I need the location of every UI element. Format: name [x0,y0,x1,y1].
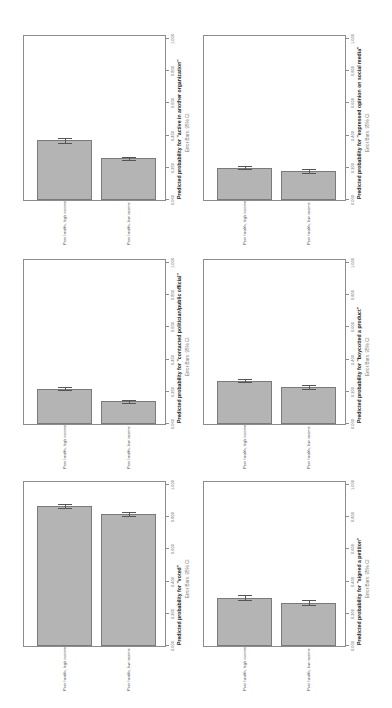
error-bar-cap [122,403,136,404]
error-bar-cap [58,508,72,509]
error-bar-cap [122,516,136,517]
axis-title: Predicted probability for "voted" [176,565,182,645]
tick-label: 0.800 [170,66,175,76]
error-bars-note: Error Bars: 95% CI [365,113,370,152]
axis-tick [346,135,349,136]
axis-tick [346,70,349,71]
chart-panel [23,259,166,425]
tick-label: 0.400 [350,577,355,587]
tick-label: 0.600 [350,544,355,554]
error-bars-note: Error Bars: 95% CI [365,559,370,598]
axis-tick [166,645,169,646]
axis-tick [346,167,349,168]
axis-tick [166,581,169,582]
error-bars-note: Error Bars: 95% CI [365,337,370,376]
error-bar-cap [238,166,252,167]
error-bar-cap [302,600,316,601]
axis-title: Predicted probability for "contacted pol… [176,273,182,423]
error-bars-note: Error Bars: 95% CI [185,559,190,598]
error-bar-cap [58,387,72,388]
axis-tick [346,548,349,549]
tick-label: 0.400 [170,577,175,587]
bar-high-income [217,381,272,424]
tick-label: 1.000 [170,258,175,268]
bar-high-income [217,168,272,200]
error-bar-cap [302,605,316,606]
category-label: Poor health, low income [126,426,131,469]
chart-panel [203,35,346,201]
axis-tick [166,326,169,327]
axis-title: Predicted probability for "boycotted a p… [356,307,362,423]
tick-label: 0.000 [170,195,175,205]
axis-tick [166,167,169,168]
axis-tick [346,102,349,103]
bar-high-income [37,506,92,646]
bar-high-income [37,389,92,424]
error-bar-cap [302,385,316,386]
axis-tick [346,423,349,424]
tick-label: 0.800 [170,512,175,522]
error-bar-cap [238,600,252,601]
axis-tick [166,135,169,136]
error-bar-cap [302,389,316,390]
tick-label: 0.200 [170,609,175,619]
bar-low-income [281,171,336,200]
error-bar-cap [122,512,136,513]
error-bar-cap [58,390,72,391]
axis-title: Predicted probability for "expressed opi… [356,46,362,199]
bar-low-income [101,514,156,646]
axis-tick [346,199,349,200]
tick-label: 0.200 [350,163,355,173]
axis-tick [166,359,169,360]
tick-label: 0.600 [350,98,355,108]
tick-label: 0.000 [350,195,355,205]
category-label: Poor health, high income [242,425,247,469]
axis-tick [346,262,349,263]
axis-tick [166,613,169,614]
chart-panel [23,35,166,201]
bar-low-income [101,158,156,200]
error-bar-cap [238,382,252,383]
tick-label: 0.800 [350,512,355,522]
tick-label: 0.400 [170,131,175,141]
error-bar-cap [238,595,252,596]
axis-tick [166,70,169,71]
axis-tick [166,38,169,39]
category-label: Poor health, high income [242,647,247,691]
bar-high-income [217,598,272,646]
tick-label: 0.800 [170,290,175,300]
category-label: Poor health, high income [62,425,67,469]
axis-tick [166,262,169,263]
axis-tick [346,294,349,295]
category-label: Poor health, low income [306,648,311,691]
tick-label: 0.400 [350,131,355,141]
tick-label: 1.000 [350,34,355,44]
tick-label: 0.800 [350,66,355,76]
axis-title: Predicted probability for "active in ano… [176,59,182,199]
axis-tick [346,359,349,360]
tick-label: 0.600 [170,544,175,554]
tick-label: 0.000 [350,641,355,651]
tick-label: 0.000 [170,641,175,651]
axis-title: Predicted probability for "signed a peti… [356,537,362,645]
tick-label: 1.000 [170,480,175,490]
chart-panel [203,481,346,647]
category-label: Poor health, low income [126,202,131,245]
axis-tick [346,645,349,646]
error-bar-cap [122,400,136,401]
axis-tick [166,548,169,549]
error-bars-note: Error Bars: 95% CI [185,113,190,152]
tick-label: 0.000 [170,419,175,429]
bar-low-income [281,603,336,646]
axis-tick [166,516,169,517]
error-bar-cap [302,169,316,170]
axis-tick [166,484,169,485]
tick-label: 1.000 [350,480,355,490]
tick-label: 0.200 [170,387,175,397]
axis-tick [166,294,169,295]
axis-tick [166,423,169,424]
category-label: Poor health, high income [62,647,67,691]
axis-tick [346,326,349,327]
tick-label: 0.400 [350,355,355,365]
category-label: Poor health, low income [306,202,311,245]
